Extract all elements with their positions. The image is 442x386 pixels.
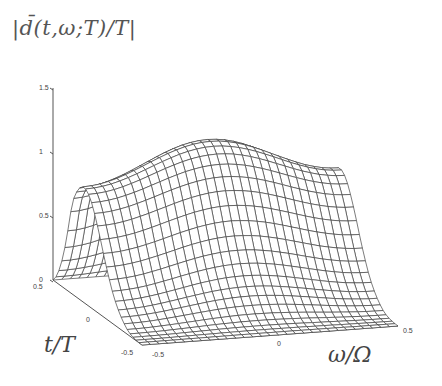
- z-tick-label: 0.5: [39, 212, 49, 219]
- z-tick-label: 0: [39, 276, 43, 283]
- w-tick-label: -0.5: [152, 351, 164, 358]
- t-tick-label: -0.5: [121, 349, 133, 356]
- t-axis-label: t/T: [44, 332, 75, 357]
- t-tick-label: 0.5: [33, 283, 43, 290]
- w-tick-label: 0.5: [403, 327, 413, 334]
- t-tick-label: 0: [86, 316, 90, 323]
- w-tick-label: 0: [277, 340, 281, 347]
- surface-mesh: [53, 139, 398, 345]
- w-axis-label: ω/Ω: [328, 342, 372, 367]
- z-tick-label: 1.5: [39, 84, 49, 91]
- z-tick-label: 1: [39, 148, 43, 155]
- surface-plot: 00.511.50.50-0.5-0.500.5: [0, 0, 442, 386]
